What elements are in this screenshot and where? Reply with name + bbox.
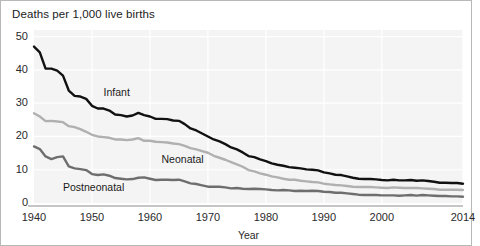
x-tick-label: 1940 xyxy=(11,211,57,223)
y-tick-label: 30 xyxy=(4,96,28,108)
x-tick-label: 1980 xyxy=(243,211,289,223)
series-label-postneonatal: Postneonatal xyxy=(63,181,124,193)
x-tick-label: 1950 xyxy=(69,211,115,223)
y-tick-label: 40 xyxy=(4,63,28,75)
y-tick-label: 10 xyxy=(4,163,28,175)
x-tick-label: 2000 xyxy=(359,211,405,223)
x-tick-label: 1960 xyxy=(127,211,173,223)
x-tick-label: 2014 xyxy=(440,211,480,223)
plot-area: 0102030405019401950196019701980199020002… xyxy=(1,1,473,246)
y-tick-label: 20 xyxy=(4,129,28,141)
series-label-infant: Infant xyxy=(104,86,130,98)
chart-canvas xyxy=(1,1,473,246)
x-axis-title: Year xyxy=(219,229,279,241)
series-label-neonatal: Neonatal xyxy=(162,153,204,165)
y-tick-label: 0 xyxy=(4,196,28,208)
plot-background xyxy=(34,30,463,203)
x-tick-label: 1970 xyxy=(185,211,231,223)
x-tick-label: 1990 xyxy=(301,211,347,223)
y-tick-label: 50 xyxy=(4,30,28,42)
